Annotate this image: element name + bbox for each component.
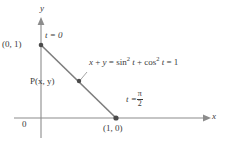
- point-dot-0-1: [39, 43, 44, 48]
- y-axis-label: y: [40, 4, 44, 13]
- x-axis-label: x: [212, 112, 216, 121]
- parameter-label-t-half-pi: t =π2: [126, 91, 143, 110]
- equation-sin-base: sin: [116, 57, 127, 67]
- equation-lhs-x: x: [89, 57, 93, 67]
- fraction-denominator: 2: [137, 100, 143, 108]
- equation-sin-arg: t: [132, 57, 135, 67]
- equation-equals-2: =: [167, 57, 172, 67]
- equation-rhs: 1: [174, 57, 179, 67]
- parametric-line-figure: y x 0 (0, 1) t = 0 P(x, y) (1, 0) t =π2 …: [0, 0, 229, 144]
- equation-equals-1: =: [109, 57, 114, 67]
- origin-label: 0: [22, 120, 27, 129]
- equation-cos-base: cos: [144, 57, 156, 67]
- point-dot-p: [77, 79, 81, 83]
- fraction-numerator: π: [137, 90, 143, 98]
- equation-cos-exponent: 2: [156, 55, 159, 62]
- parameter-label-t-zero: t = 0: [45, 31, 63, 40]
- half-pi-fraction: π2: [137, 90, 143, 109]
- equation-plus-2: +: [137, 57, 142, 67]
- equation-annotation: x + y = sin2 t + cos2 t = 1: [89, 58, 178, 67]
- t-half-pi-prefix: t =: [126, 94, 137, 104]
- point-dot-1-0: [113, 115, 118, 120]
- equation-lhs-y: y: [103, 57, 107, 67]
- x-axis-arrowhead: [203, 115, 211, 122]
- point-label-0-1: (0, 1): [2, 40, 22, 49]
- point-label-p: P(x, y): [30, 77, 55, 86]
- equation-cos-arg: t: [162, 57, 165, 67]
- y-axis-arrowhead: [38, 17, 45, 25]
- equation-sin-exponent: 2: [127, 55, 130, 62]
- point-label-1-0: (1, 0): [103, 124, 123, 133]
- equation-plus-1: +: [95, 57, 100, 67]
